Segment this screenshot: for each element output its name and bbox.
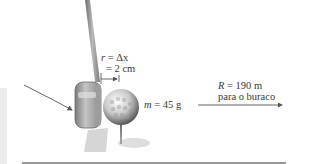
displacement-marker [101,73,119,84]
ground-rule [22,162,286,164]
swing-arrow [24,85,72,110]
mass-label: m = 45 g [144,99,181,110]
displacement-label-line2: = 2 cm [106,63,135,74]
club-head [75,82,101,128]
club-shadow [84,128,108,152]
club-shaft [85,0,100,82]
ball-shadow [118,138,150,148]
displacement-label-line1: r = Δx [101,52,128,63]
range-label-line2: para o buraco [218,91,275,102]
range-label-line1: R = 190 m [218,80,262,91]
